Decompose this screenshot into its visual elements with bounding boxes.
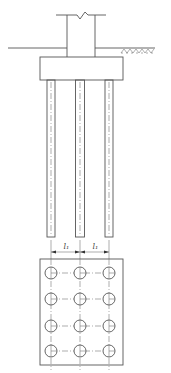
dimension-span: l₁ [80,242,109,254]
pile-cap [40,57,123,80]
dimension-label: l₁ [93,242,99,251]
pile-foundation-diagram: l₁l₁ [0,0,171,373]
piles-elevation [47,80,113,237]
plan-view [40,259,123,370]
pile [76,80,85,237]
pile [105,80,113,237]
pile [47,80,55,237]
dimension-span: l₁ [51,242,80,254]
dimension-label: l₁ [64,242,70,251]
earth-hatch-icon [121,49,155,53]
dimension-lines: l₁l₁ [51,240,109,259]
column-break-line [56,12,106,19]
column [67,15,95,57]
foundation-drawing: l₁l₁ [0,0,171,373]
